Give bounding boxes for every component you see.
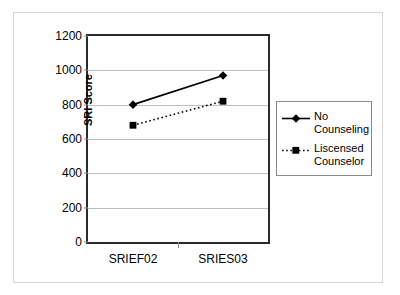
series-layer: [88, 36, 268, 242]
legend-diamond-marker-icon: [281, 111, 311, 124]
legend-label: Liscensed Counselor: [314, 142, 367, 168]
legend-entry[interactable]: No Counseling: [281, 110, 367, 136]
y-tick-label: 1000: [55, 63, 82, 77]
y-tick-label: 400: [62, 166, 82, 180]
y-tick-label: 0: [75, 235, 82, 249]
legend-entry[interactable]: Liscensed Counselor: [281, 142, 367, 168]
x-tick-label: SRIES03: [198, 252, 247, 266]
data-point-marker: [130, 122, 137, 129]
legend-square-marker-icon: [281, 143, 311, 156]
chart-figure: SRI Score 020040060080010001200 SRIEF02S…: [13, 12, 383, 283]
data-point-marker: [220, 98, 227, 105]
y-tick-label: 200: [62, 201, 82, 215]
series-line: [133, 101, 223, 125]
chart-legend: No CounselingLiscensed Counselor: [276, 101, 372, 176]
x-tick-mark: [178, 242, 179, 248]
y-tick-label: 1200: [55, 29, 82, 43]
series-line: [133, 75, 223, 104]
data-point-marker: [129, 100, 138, 109]
y-tick-label: 800: [62, 98, 82, 112]
y-tick-label: 600: [62, 132, 82, 146]
data-point-marker: [219, 71, 228, 80]
plot-area: SRI Score 020040060080010001200 SRIEF02S…: [86, 34, 270, 244]
x-tick-label: SRIEF02: [109, 252, 158, 266]
legend-label: No Counseling: [314, 110, 369, 136]
